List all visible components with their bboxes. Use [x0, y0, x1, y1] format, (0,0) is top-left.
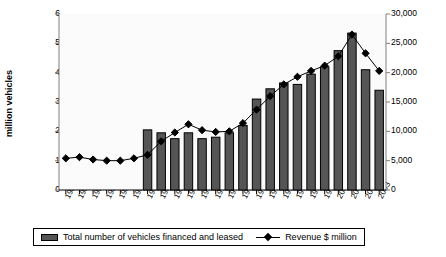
legend-entry-bars: Total number of vehicles financed and le…: [41, 232, 243, 242]
bar-2001: [348, 33, 356, 190]
bar-swatch-icon: [41, 234, 58, 241]
bar-2000: [334, 51, 342, 190]
bar-1996: [280, 83, 288, 190]
bar-1991: [211, 137, 219, 190]
legend-label-line: Revenue $ million: [285, 232, 357, 242]
bar-1988: [171, 139, 179, 190]
diamond-marker-icon: [256, 233, 280, 242]
bar-1989: [184, 133, 192, 190]
bar-1993: [239, 125, 247, 190]
legend-entry-line: Revenue $ million: [256, 232, 357, 242]
bar-1999: [320, 67, 328, 190]
plot-area: [0, 0, 446, 257]
bar-2002: [361, 70, 369, 190]
bar-1992: [225, 133, 233, 190]
bar-1997: [293, 84, 301, 190]
bar-1990: [198, 139, 206, 190]
bar-1986: [143, 130, 151, 190]
chart-legend: Total number of vehicles financed and le…: [33, 228, 365, 246]
bar-2003: [375, 90, 383, 190]
bar-1998: [307, 74, 315, 190]
bar-1995: [266, 89, 274, 190]
chart-container: million vehicles 0123456 05,00010,00015,…: [0, 0, 446, 257]
legend-label-bars: Total number of vehicles financed and le…: [63, 232, 243, 242]
